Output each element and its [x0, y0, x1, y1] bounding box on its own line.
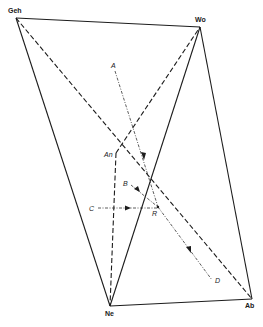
- label-b: B: [123, 180, 128, 187]
- edge-wo-ab: [200, 27, 252, 299]
- arrow-b-icon: [134, 186, 140, 192]
- label-ne: Ne: [105, 310, 114, 317]
- arrow-c-icon: [125, 206, 131, 211]
- point-r-marker: [157, 206, 159, 208]
- edge-an-ne: [110, 153, 116, 306]
- label-a: A: [110, 62, 116, 69]
- path-a-r: [115, 71, 158, 207]
- edge-geh-wo: [16, 18, 200, 27]
- arrow-d-icon: [186, 246, 191, 253]
- label-d: D: [215, 277, 220, 284]
- edge-an-wo: [116, 27, 200, 153]
- edge-ab-ne: [110, 299, 252, 306]
- label-r: R: [152, 210, 157, 217]
- label-an: An: [103, 151, 113, 158]
- edge-ne-wo: [110, 27, 200, 306]
- label-geh: Geh: [8, 7, 22, 14]
- phase-diagram: Geh Wo An Ne Ab A B C R D: [0, 0, 263, 327]
- label-c: C: [89, 205, 95, 212]
- edge-ne-geh: [16, 18, 110, 306]
- label-ab: Ab: [245, 302, 254, 309]
- path-r-d: [158, 207, 212, 280]
- edge-geh-ab: [16, 18, 252, 299]
- label-wo: Wo: [195, 16, 206, 23]
